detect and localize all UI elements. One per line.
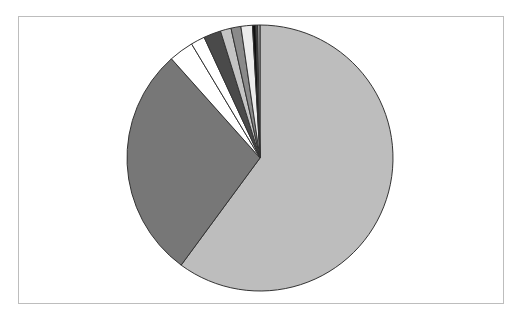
pie-slices — [127, 25, 393, 291]
pie-chart — [0, 0, 522, 324]
